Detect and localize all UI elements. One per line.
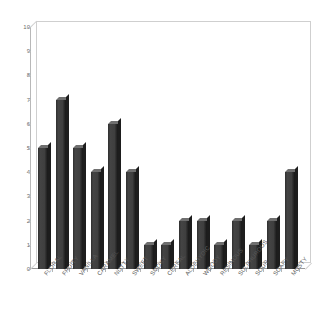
bar-side-face (101, 166, 104, 269)
bar (73, 148, 83, 269)
y-axis-tick-label: 5 (10, 145, 30, 151)
bar-side-face (136, 166, 139, 269)
bar-side-face (207, 215, 210, 269)
bar-side-face (189, 215, 192, 269)
bar-side-face (118, 118, 121, 269)
y-axis-tick-label: 8 (10, 72, 30, 78)
y-axis-tick-label: 2 (10, 218, 30, 224)
bar-face (285, 172, 295, 269)
bar-side-face (66, 94, 69, 269)
y-axis-tick-label: 6 (10, 121, 30, 127)
y-axis-tick-label: 3 (10, 193, 30, 199)
bar (285, 172, 295, 269)
y-axis-tick-label: 7 (10, 97, 30, 103)
bars-layer (30, 27, 305, 269)
y-axis: 109876543210 (0, 0, 30, 329)
x-axis-labels: FLORALFRUITYVANILLACARAMELNUTTYSWEETSMOK… (30, 269, 324, 329)
y-axis-tick-label: 0 (10, 266, 30, 272)
bar (56, 100, 66, 269)
y-axis-tick-label: 9 (10, 48, 30, 54)
y-axis-tick-label: 4 (10, 169, 30, 175)
bar-face (108, 124, 118, 269)
bar-side-face (242, 215, 245, 269)
bar-face (38, 148, 48, 269)
bar (108, 124, 118, 269)
bar (126, 172, 136, 269)
bar-face (126, 172, 136, 269)
bar (38, 148, 48, 269)
bar-side-face (83, 142, 86, 269)
bar-side-face (277, 215, 280, 269)
y-axis-tick-label: 10 (10, 24, 30, 30)
bar-side-face (48, 142, 51, 269)
bar-chart: 109876543210 FLORALFRUITYVANILLACARAMELN… (0, 0, 324, 329)
bar-face (56, 100, 66, 269)
bar-face (73, 148, 83, 269)
y-axis-tick-label: 1 (10, 242, 30, 248)
bar-side-face (295, 166, 298, 269)
